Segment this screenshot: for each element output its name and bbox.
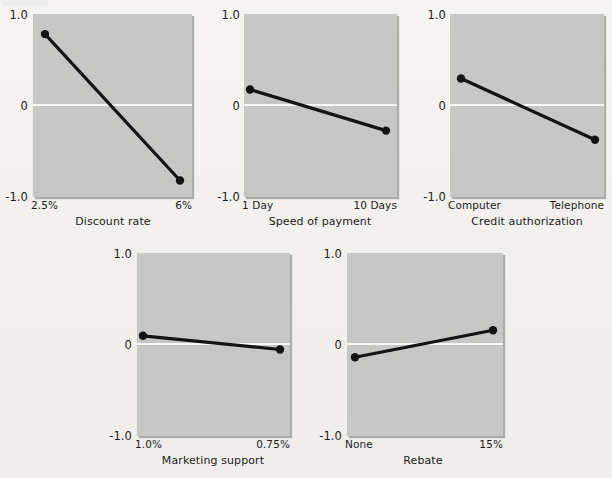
y-tick-bottom: -1.0: [104, 429, 132, 443]
plot-area: [244, 14, 397, 197]
series-line: [244, 14, 397, 197]
y-tick-top: 1.0: [0, 8, 28, 22]
panel-discount-rate: 1.0 0 -1.0 2.5% 6% Discount rate: [0, 0, 212, 238]
x-tick-left: None: [345, 438, 415, 450]
y-tick-zero: 0: [418, 99, 446, 113]
y-tick-zero: 0: [314, 338, 342, 352]
x-axis-title: Discount rate: [22, 215, 204, 228]
y-tick-zero: 0: [212, 99, 240, 113]
series-line: [33, 14, 192, 197]
plot-area: [33, 14, 192, 197]
y-tick-bottom: -1.0: [314, 429, 342, 443]
panel-marketing-support: 1.0 0 -1.0 1.0% 0.75% Marketing support: [100, 239, 305, 478]
y-tick-bottom: -1.0: [418, 190, 446, 204]
x-axis-title: Marketing support: [122, 454, 304, 467]
x-tick-right: 0.75%: [220, 438, 290, 450]
x-tick-left: Computer: [448, 199, 528, 211]
y-tick-bottom: -1.0: [0, 190, 28, 204]
y-tick-top: 1.0: [104, 247, 132, 261]
x-tick-right: Telephone: [532, 199, 604, 211]
plot-area: [347, 253, 503, 436]
x-tick-right: 6%: [122, 199, 192, 211]
x-axis-title: Rebate: [332, 454, 514, 467]
x-axis-title: Speed of payment: [230, 215, 410, 228]
x-axis-title: Credit authorization: [436, 215, 612, 228]
series-line: [347, 253, 503, 436]
y-tick-top: 1.0: [314, 247, 342, 261]
x-tick-right: 10 Days: [327, 199, 397, 211]
plot-area: [137, 253, 290, 436]
x-tick-left: 1 Day: [242, 199, 312, 211]
y-tick-top: 1.0: [212, 8, 240, 22]
x-tick-left: 1.0%: [135, 438, 205, 450]
series-line: [137, 253, 290, 436]
panel-rebate: 1.0 0 -1.0 None 15% Rebate: [310, 239, 515, 478]
panel-speed-of-payment: 1.0 0 -1.0 1 Day 10 Days Speed of paymen…: [212, 0, 412, 238]
x-tick-left: 2.5%: [31, 199, 101, 211]
y-tick-bottom: -1.0: [212, 190, 240, 204]
y-tick-top: 1.0: [418, 8, 446, 22]
x-tick-right: 15%: [435, 438, 503, 450]
plot-area: [450, 14, 604, 197]
y-tick-zero: 0: [104, 338, 132, 352]
figure-canvas: 1.0 0 -1.0 2.5% 6% Discount rate 1.0 0 -…: [0, 0, 612, 478]
y-tick-zero: 0: [0, 99, 28, 113]
panel-credit-authorization: 1.0 0 -1.0 Computer Telephone Credit aut…: [412, 0, 612, 238]
series-line: [450, 14, 604, 197]
